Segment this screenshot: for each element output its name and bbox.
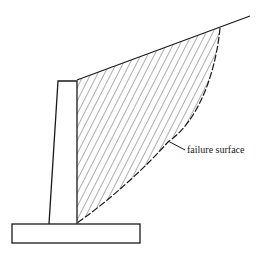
failure-surface-label: failure surface	[187, 144, 245, 155]
annotation-leader-line	[168, 141, 185, 150]
footing-base	[12, 224, 140, 243]
retaining-wall-stem	[49, 81, 77, 224]
soil-wedge-hatched	[70, 20, 230, 230]
retaining-wall-diagram: failure surface	[0, 0, 263, 256]
